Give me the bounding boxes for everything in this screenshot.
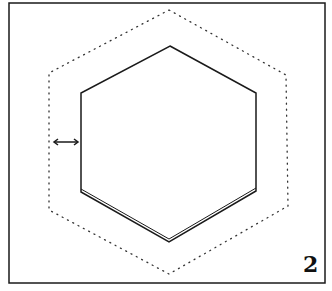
inner-hexagon-bottom-edge-double	[81, 188, 256, 239]
offset-arrow-icon	[54, 139, 78, 145]
inner-hexagon	[81, 46, 256, 242]
figure-number: 2	[303, 251, 318, 277]
outer-dotted-hexagon	[49, 10, 288, 274]
diagram-canvas	[0, 0, 332, 291]
